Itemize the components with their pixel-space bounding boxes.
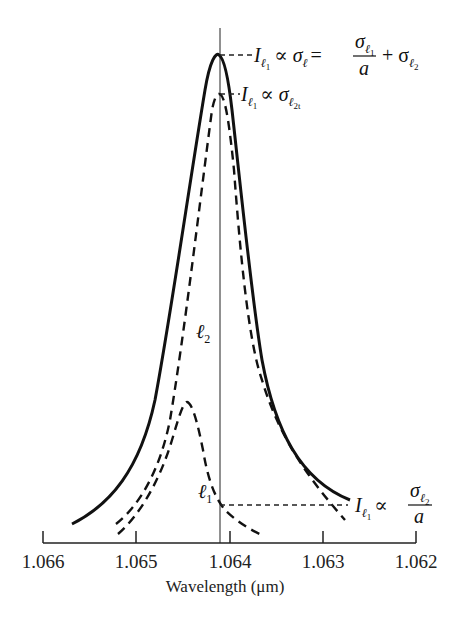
svg-text:Iℓ1∝ σℓ=: Iℓ1∝ σℓ= <box>253 44 322 72</box>
annotation-l1-crossing: Iℓ1∝ σℓ2 a <box>354 479 432 527</box>
l1-curve <box>118 402 262 535</box>
svg-text:σℓ2: σℓ2 <box>410 479 429 507</box>
tick-label: 1.065 <box>115 551 158 572</box>
svg-text:σℓ1: σℓ1 <box>355 30 374 58</box>
tick-label: 1.066 <box>22 551 65 572</box>
spectrum-chart: 1.066 1.065 1.064 1.063 1.062 Wavelength… <box>0 0 456 620</box>
tick-label: 1.062 <box>395 551 438 572</box>
tick-label: 1.063 <box>302 551 345 572</box>
annotation-total-peak: Iℓ1∝ σℓ= σℓ1 a + σℓ2 <box>253 30 419 79</box>
svg-text:Iℓ1∝: Iℓ1∝ <box>354 494 388 522</box>
svg-text:a: a <box>414 505 424 527</box>
l1-label: ℓ1 <box>198 480 212 506</box>
l2-label: ℓ2 <box>196 320 210 346</box>
total-curve <box>72 54 350 524</box>
annotation-l2-peak: Iℓ1∝ σℓ2t <box>240 83 301 111</box>
tick-label: 1.064 <box>209 551 252 572</box>
l2-curve <box>116 94 345 524</box>
svg-text:a: a <box>359 57 369 79</box>
x-axis-label: Wavelength (μm) <box>166 577 285 596</box>
svg-text:+ σℓ2: + σℓ2 <box>382 44 419 72</box>
x-tick-labels: 1.066 1.065 1.064 1.063 1.062 <box>22 551 438 572</box>
x-axis <box>43 531 416 543</box>
svg-text:Iℓ1∝ σℓ2t: Iℓ1∝ σℓ2t <box>240 83 301 111</box>
